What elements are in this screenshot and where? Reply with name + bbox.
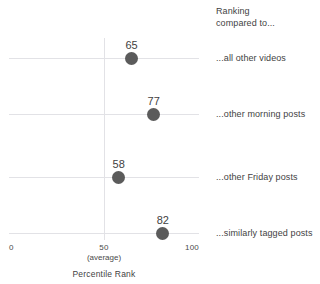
data-point-dot[interactable] xyxy=(125,52,138,65)
x-axis-average-sublabel: (average) xyxy=(87,253,121,262)
gridline-row-1 xyxy=(9,58,199,59)
category-label-other-friday-posts: ...other Friday posts xyxy=(216,172,320,182)
percentile-rank-dot-chart: 65 77 58 82 0 50 100 (average) Percentil… xyxy=(0,0,320,284)
legend-title-line-2: compared to... xyxy=(216,17,320,29)
data-point-value: 65 xyxy=(125,39,137,51)
average-reference-line xyxy=(104,38,105,240)
gridline-row-2 xyxy=(9,114,199,115)
x-axis-title: Percentile Rank xyxy=(72,269,135,279)
data-point-value: 77 xyxy=(147,95,159,107)
data-point-dot[interactable] xyxy=(112,171,125,184)
data-point-dot[interactable] xyxy=(156,227,169,240)
data-point-value: 58 xyxy=(113,158,125,170)
data-point-value: 82 xyxy=(157,214,169,226)
legend-title-line-1: Ranking xyxy=(216,5,320,17)
gridline-row-4 xyxy=(9,233,199,234)
category-label-other-morning-posts: ...other morning posts xyxy=(216,109,320,119)
category-label-all-other-videos: ...all other videos xyxy=(216,53,320,63)
plot-area: 65 77 58 82 xyxy=(12,30,196,240)
x-axis-tick-50: 50 xyxy=(99,243,108,252)
gridline-row-3 xyxy=(9,177,199,178)
data-point-dot[interactable] xyxy=(147,108,160,121)
x-axis-tick-100: 100 xyxy=(185,243,199,252)
category-label-similarly-tagged-posts: ...similarly tagged posts xyxy=(216,228,320,238)
x-axis-tick-0: 0 xyxy=(9,243,14,252)
legend-title: Ranking compared to... xyxy=(216,5,320,29)
